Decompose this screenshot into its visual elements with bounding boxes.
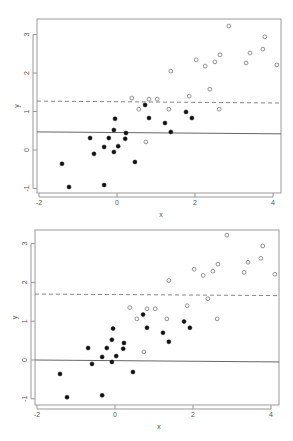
open-circle-point — [208, 87, 212, 91]
filled-circle-point — [188, 326, 192, 330]
open-circle-point — [147, 97, 151, 101]
open-circle-point — [142, 350, 146, 354]
y-tick-label: 3 — [23, 32, 30, 36]
filled-circle-point — [105, 346, 109, 350]
open-circle-point — [263, 35, 267, 39]
filled-circle-point — [123, 137, 127, 141]
open-circle-point — [244, 61, 248, 65]
open-circle-point — [192, 267, 196, 271]
filled-circle-point — [161, 331, 165, 335]
open-circle-point — [225, 233, 229, 237]
filled-circle-point — [65, 395, 69, 399]
open-circle-point — [145, 307, 149, 311]
filled-circle-point — [131, 370, 135, 374]
filled-circle-point — [88, 136, 92, 140]
open-circle-point — [185, 304, 189, 308]
open-circle-point — [218, 53, 222, 57]
open-circle-point — [246, 260, 250, 264]
y-tick-label: 2 — [21, 280, 28, 284]
filled-circle-point — [147, 116, 151, 120]
filled-circle-point — [167, 340, 171, 344]
dashed-reference-line — [37, 101, 281, 103]
filled-circle-point — [102, 183, 106, 187]
open-circle-point — [211, 269, 215, 273]
filled-circle-point — [113, 117, 117, 121]
open-circle-point — [167, 279, 171, 283]
filled-circle-point — [124, 131, 128, 135]
filled-circle-point — [107, 136, 111, 140]
filled-circle-point — [112, 128, 116, 132]
filled-circle-point — [182, 320, 186, 324]
x-axis-label: x — [159, 211, 163, 218]
open-circle-point — [248, 51, 252, 55]
x-tick-label: 2 — [191, 411, 195, 418]
y-axis-label: y — [13, 104, 21, 108]
filled-circle-point — [184, 110, 188, 114]
open-circle-point — [261, 47, 265, 51]
solid-reference-line — [37, 132, 281, 134]
open-circle-point — [259, 256, 263, 260]
filled-circle-point — [86, 346, 90, 350]
y-tick-label: 1 — [21, 319, 28, 323]
x-tick-label: 0 — [113, 411, 117, 418]
filled-circle-point — [58, 372, 62, 376]
x-tick-label: -2 — [36, 199, 42, 206]
filled-circle-point — [60, 162, 64, 166]
x-tick-label: -2 — [34, 411, 40, 418]
filled-circle-point — [145, 326, 149, 330]
open-circle-point — [227, 24, 231, 28]
filled-circle-point — [133, 160, 137, 164]
filled-circle-point — [141, 313, 145, 317]
y-tick-label: 0 — [21, 358, 28, 362]
open-circle-point — [165, 317, 169, 321]
open-circle-point — [201, 274, 205, 278]
filled-circle-point — [163, 121, 167, 125]
y-tick-label: -1 — [21, 396, 28, 402]
filled-circle-point — [110, 360, 114, 364]
filled-circle-point — [143, 103, 147, 107]
filled-circle-point — [116, 144, 120, 148]
open-circle-point — [206, 297, 210, 301]
open-circle-point — [215, 317, 219, 321]
filled-circle-point — [169, 130, 173, 134]
open-circle-point — [169, 69, 173, 73]
plot-frame — [37, 19, 281, 193]
y-tick-label: 3 — [21, 242, 28, 246]
open-circle-point — [155, 97, 159, 101]
open-circle-point — [217, 107, 221, 111]
open-circle-point — [137, 107, 141, 111]
open-circle-point — [144, 140, 148, 144]
plot-canvas: -2024-10123xy — [0, 220, 293, 441]
open-circle-point — [130, 96, 134, 100]
filled-circle-point — [110, 338, 114, 342]
scatter-plot-top: -2024-10123xy — [0, 0, 293, 220]
open-circle-point — [167, 107, 171, 111]
x-tick-label: 4 — [269, 411, 273, 418]
y-tick-label: 1 — [23, 109, 30, 113]
filled-circle-point — [111, 327, 115, 331]
open-circle-point — [135, 317, 139, 321]
filled-circle-point — [92, 152, 96, 156]
filled-circle-point — [67, 185, 71, 189]
filled-circle-point — [100, 393, 104, 397]
scatter-plot-bottom: -2024-10123xy — [0, 220, 293, 441]
x-tick-label: 4 — [271, 199, 275, 206]
open-circle-point — [261, 244, 265, 248]
open-circle-point — [216, 262, 220, 266]
open-circle-point — [213, 60, 217, 64]
open-circle-point — [273, 272, 277, 276]
plot-canvas: -2024-10123xy — [0, 0, 293, 220]
plot-frame — [35, 230, 279, 405]
filled-circle-point — [122, 341, 126, 345]
open-circle-point — [203, 64, 207, 68]
y-axis-label: y — [11, 315, 19, 319]
open-circle-point — [153, 307, 157, 311]
open-circle-point — [242, 270, 246, 274]
filled-circle-point — [102, 145, 106, 149]
open-circle-point — [187, 94, 191, 98]
open-circle-point — [275, 63, 279, 67]
dashed-reference-line — [35, 294, 279, 296]
y-tick-label: -1 — [23, 185, 30, 191]
open-circle-point — [194, 58, 198, 62]
filled-circle-point — [114, 354, 118, 358]
